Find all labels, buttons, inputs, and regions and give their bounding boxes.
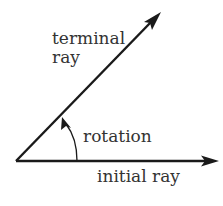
initial-ray (16, 156, 219, 167)
terminal-label-line1: terminal (52, 28, 125, 48)
rotation-arc (61, 117, 77, 161)
angle-diagram: terminal ray rotation initial ray (0, 0, 223, 206)
terminal-label-line2: ray (52, 47, 80, 67)
initial-ray-label: initial ray (97, 166, 180, 186)
rotation-label: rotation (83, 126, 152, 146)
